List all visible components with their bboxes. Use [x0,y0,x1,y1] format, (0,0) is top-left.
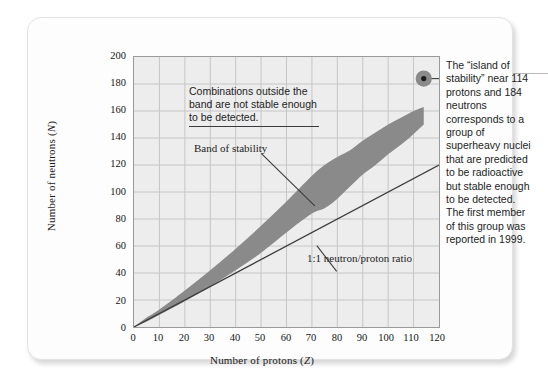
y-axis-title-suffix: ) [45,121,57,125]
x-tick-label: 0 [121,332,145,343]
y-tick-label: 80 [96,213,126,224]
callout-outside-band: Combinations outside the band are not st… [189,85,317,125]
y-tick-label: 140 [96,131,126,142]
x-tick-label: 20 [172,332,196,343]
x-axis-title-prefix: Number of protons ( [210,354,304,366]
callout-ratio-line: 1:1 neutron/proton ratio [307,252,412,264]
y-tick-label: 120 [96,158,126,169]
y-tick-label: 20 [96,295,126,306]
callout-island-of-stability: The “island of stability” near 114 proto… [446,59,536,247]
band-leader-line [261,153,315,206]
x-tick-label: 10 [146,332,170,343]
y-tick-label: 40 [96,267,126,278]
y-tick-label: 180 [96,77,126,88]
y-axis-title-prefix: Number of neutrons ( [45,132,57,231]
x-axis-title: Number of protons (Z) [210,354,314,366]
callout-outside-band-rule [189,126,319,127]
figure-card: Number of neutrons (N) Number of protons… [27,17,513,360]
x-tick-label: 110 [399,332,423,343]
x-tick-label: 120 [425,332,449,343]
x-tick-label: 100 [374,332,398,343]
y-axis-title-symbol: N [45,125,57,133]
band-of-stability-area [134,107,424,327]
island-of-stability-point [421,76,426,81]
y-tick-label: 60 [96,240,126,251]
x-tick-label: 30 [197,332,221,343]
x-tick-label: 90 [350,332,374,343]
x-tick-label: 80 [325,332,349,343]
x-axis-title-suffix: ) [310,354,314,366]
x-tick-label: 50 [248,332,272,343]
figure-page: Number of neutrons (N) Number of protons… [0,0,548,384]
y-tick-label: 160 [96,104,126,115]
y-tick-label: 200 [96,50,126,61]
callout-band-of-stability: Band of stability [194,142,267,154]
y-tick-label: 100 [96,186,126,197]
x-tick-label: 60 [274,332,298,343]
x-tick-label: 70 [299,332,323,343]
x-tick-label: 40 [223,332,247,343]
y-axis-title: Number of neutrons (N) [45,111,57,241]
